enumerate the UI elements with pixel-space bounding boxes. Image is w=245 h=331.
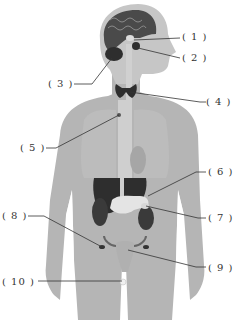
label-2: ( 2 ): [182, 52, 208, 63]
label-1: ( 1 ): [182, 31, 208, 42]
label-4: ( 4 ): [206, 96, 232, 107]
hypothalamus: [126, 35, 134, 41]
label-6: ( 6 ): [208, 166, 234, 177]
adrenal-gland: [141, 203, 149, 209]
cerebellum: [105, 47, 123, 61]
kidney-right: [138, 206, 154, 230]
ovary-right: [143, 245, 149, 249]
label-7: ( 7 ): [208, 212, 234, 223]
label-8: ( 8 ): [2, 210, 28, 221]
kidney-left: [92, 198, 108, 226]
label-9: ( 9 ): [208, 262, 234, 273]
label-5: ( 5 ): [20, 142, 46, 153]
label-10: ( 10 ): [2, 276, 35, 287]
gonad-marker: [120, 279, 126, 285]
label-3: ( 3 ): [48, 78, 74, 89]
pituitary: [132, 42, 140, 50]
